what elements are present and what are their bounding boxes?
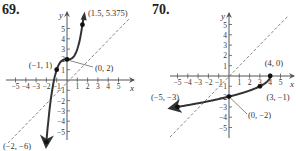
x-axis-label: x <box>129 83 134 93</box>
data-point <box>175 105 180 110</box>
x-tick-label: 1 <box>75 82 79 91</box>
x-tick-label: 2 <box>248 78 252 87</box>
graph-69: xy−5−5−4−4−3−3−2−2−1−11122334455(−2, −6)… <box>0 0 148 151</box>
y-tick-label: −1 <box>219 82 227 91</box>
x-tick-label: −4 <box>184 78 192 87</box>
y-tick-label: 1 <box>61 66 65 75</box>
y-tick-label: −5 <box>219 124 227 133</box>
point-label: (3, −1) <box>266 92 289 102</box>
data-point <box>80 22 85 27</box>
graph-panel-70: 70. xy−5−5−4−4−3−3−2−2−1−11122334455(4, … <box>148 0 296 151</box>
x-tick-label: −5 <box>174 78 182 87</box>
point-label: (0, 2) <box>95 63 114 73</box>
y-tick-label: 5 <box>61 25 65 34</box>
x-tick-label: −2 <box>204 78 212 87</box>
graph-panel-69: 69. xy−5−5−4−4−3−3−2−2−1−11122334455(−2,… <box>0 0 148 151</box>
y-tick-label: 4 <box>61 35 65 44</box>
x-tick-label: −2 <box>42 82 50 91</box>
data-point <box>44 139 49 144</box>
y-tick-label: −3 <box>219 103 227 112</box>
x-axis-label: x <box>289 79 294 89</box>
data-point <box>54 67 59 72</box>
arrowhead-top <box>81 12 87 21</box>
point-label: (−5, −3) <box>151 92 179 102</box>
data-point <box>268 74 273 79</box>
y-tick-label: 3 <box>61 45 65 54</box>
y-tick-label: −3 <box>57 107 65 116</box>
leader-line <box>231 99 247 114</box>
x-tick-label: −4 <box>22 82 30 91</box>
x-tick-label: 1 <box>237 78 241 87</box>
y-tick-label: 4 <box>223 31 227 40</box>
graph-70: xy−5−5−4−4−3−3−2−2−1−11122334455(4, 0)(3… <box>148 0 296 151</box>
y-axis-label: y <box>220 11 225 21</box>
data-point <box>65 57 70 62</box>
x-tick-label: 2 <box>86 82 90 91</box>
y-tick-label: −5 <box>57 128 65 137</box>
point-label: (−1, 1) <box>29 60 52 70</box>
y-tick-label: 3 <box>223 41 227 50</box>
x-tick-label: 5 <box>279 78 283 87</box>
y-tick-label: −1 <box>57 86 65 95</box>
x-tick-label: 3 <box>96 82 100 91</box>
point-label: (0, −2) <box>248 110 271 120</box>
y-axis-label: y <box>58 10 63 20</box>
y-tick-label: −4 <box>57 117 65 126</box>
x-tick-label: −5 <box>12 82 20 91</box>
y-tick-label: −2 <box>57 97 65 106</box>
y-tick-label: −4 <box>219 113 227 122</box>
x-tick-label: −3 <box>194 78 202 87</box>
data-point <box>258 84 263 89</box>
y-tick-label: 2 <box>223 51 227 60</box>
leader-line <box>69 60 93 67</box>
point-label: (1.5, 5.375) <box>88 8 128 18</box>
y-tick-label: 1 <box>223 62 227 71</box>
point-label: (−2, −6) <box>3 141 31 151</box>
point-label: (4, 0) <box>265 58 284 68</box>
y-tick-label: 5 <box>223 21 227 30</box>
data-point <box>227 94 232 99</box>
x-tick-label: 5 <box>117 82 121 91</box>
x-tick-label: −3 <box>32 82 40 91</box>
x-tick-label: 4 <box>106 82 110 91</box>
